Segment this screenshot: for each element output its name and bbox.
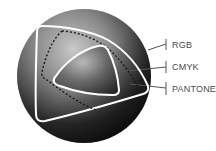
cmyk-label: CMYK — [172, 62, 199, 72]
rgb-label: RGB — [172, 40, 192, 50]
rgb-leader — [148, 44, 166, 50]
gamut-diagram — [0, 0, 216, 151]
pantone-label: PANTONE — [172, 84, 216, 94]
